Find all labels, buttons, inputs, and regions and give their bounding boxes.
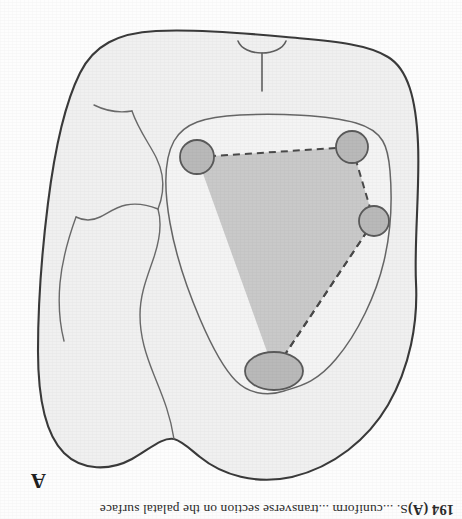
node-bottom-right[interactable]	[180, 140, 214, 174]
node-left[interactable]	[359, 206, 389, 236]
node-apex[interactable]	[245, 352, 303, 390]
figure-page: 194 (A)S. ...cuniform ...transverse sect…	[0, 0, 462, 519]
node-bottom-left[interactable]	[336, 131, 368, 163]
scan-rotator: 194 (A)S. ...cuniform ...transverse sect…	[0, 0, 462, 519]
anatomical-line-drawing	[0, 0, 462, 519]
